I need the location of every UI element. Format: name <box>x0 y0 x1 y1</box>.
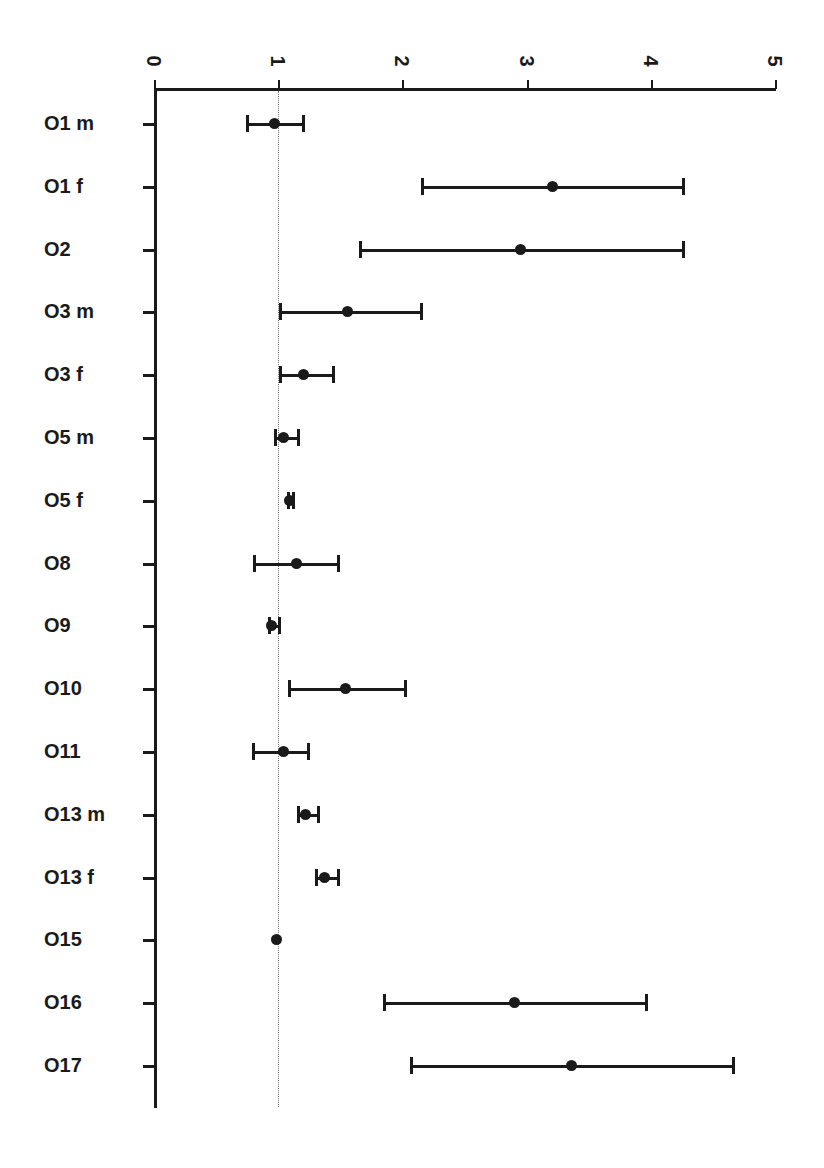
category-label-o17: O17 <box>44 1054 139 1076</box>
y-tick-o1-f <box>143 186 155 189</box>
category-label-o15: O15 <box>44 928 139 950</box>
point-marker-o5-f <box>284 495 295 506</box>
y-axis-line <box>154 88 157 1108</box>
y-tick-o17 <box>143 1065 155 1068</box>
ci-cap-upper-o13-f <box>337 869 340 886</box>
x-tick-label-5: 5 <box>764 48 786 74</box>
point-marker-o16 <box>509 997 520 1008</box>
x-tick-4 <box>651 80 653 89</box>
point-marker-o8 <box>291 558 302 569</box>
category-label-o2: O2 <box>44 238 139 260</box>
category-label-o16: O16 <box>44 991 139 1013</box>
point-marker-o15 <box>271 934 282 945</box>
category-label-o8: O8 <box>44 552 139 574</box>
ci-cap-lower-o16 <box>383 994 386 1011</box>
category-label-o1-m: O1 m <box>44 112 139 134</box>
ci-cap-lower-o17 <box>410 1057 413 1074</box>
point-marker-o1-f <box>547 181 558 192</box>
ci-cap-upper-o3-m <box>420 303 423 320</box>
category-label-o13-f: O13 f <box>44 866 139 888</box>
ci-cap-upper-o1-m <box>302 115 305 132</box>
point-marker-o3-m <box>342 306 353 317</box>
point-marker-o3-f <box>298 369 309 380</box>
y-tick-o3-m <box>143 311 155 314</box>
ci-cap-upper-o17 <box>732 1057 735 1074</box>
point-marker-o2 <box>515 244 526 255</box>
x-tick-0 <box>154 80 156 89</box>
x-tick-1 <box>278 80 280 89</box>
category-label-o13-m: O13 m <box>44 803 139 825</box>
y-tick-o13-m <box>143 814 155 817</box>
y-tick-o9 <box>143 625 155 628</box>
ci-cap-lower-o11 <box>252 743 255 760</box>
category-label-o1-f: O1 f <box>44 175 139 197</box>
ci-cap-lower-o1-m <box>246 115 249 132</box>
x-tick-label-4: 4 <box>640 48 662 74</box>
y-tick-o3-f <box>143 374 155 377</box>
point-marker-o1-m <box>269 118 280 129</box>
y-tick-o13-f <box>143 877 155 880</box>
ci-cap-upper-o9 <box>278 617 281 634</box>
point-marker-o11 <box>278 746 289 757</box>
x-tick-label-2: 2 <box>391 48 413 74</box>
ci-cap-lower-o2 <box>359 241 362 258</box>
ci-cap-lower-o10 <box>288 680 291 697</box>
x-tick-2 <box>402 80 404 89</box>
x-tick-label-0: 0 <box>143 48 165 74</box>
ci-cap-lower-o8 <box>253 555 256 572</box>
reference-line-at-one <box>278 91 279 1107</box>
ci-cap-upper-o13-m <box>317 806 320 823</box>
point-marker-o5-m <box>278 432 289 443</box>
x-tick-label-1: 1 <box>267 48 289 74</box>
category-label-o11: O11 <box>44 740 139 762</box>
category-label-o5-m: O5 m <box>44 426 139 448</box>
point-marker-o13-m <box>300 809 311 820</box>
category-label-o3-f: O3 f <box>44 363 139 385</box>
ci-cap-upper-o5-m <box>297 429 300 446</box>
y-tick-o5-m <box>143 437 155 440</box>
point-marker-o10 <box>340 683 351 694</box>
ci-cap-upper-o2 <box>682 241 685 258</box>
category-label-o3-m: O3 m <box>44 300 139 322</box>
y-tick-o11 <box>143 751 155 754</box>
category-label-o5-f: O5 f <box>44 489 139 511</box>
ci-cap-upper-o8 <box>337 555 340 572</box>
y-tick-o15 <box>143 939 155 942</box>
point-marker-o13-f <box>319 872 330 883</box>
ci-cap-upper-o11 <box>307 743 310 760</box>
y-tick-o5-f <box>143 500 155 503</box>
x-tick-5 <box>775 80 777 89</box>
y-tick-o1-m <box>143 123 155 126</box>
x-tick-label-3: 3 <box>516 48 538 74</box>
category-label-o10: O10 <box>44 677 139 699</box>
y-tick-o2 <box>143 249 155 252</box>
ci-cap-upper-o1-f <box>682 178 685 195</box>
y-tick-o8 <box>143 563 155 566</box>
x-tick-3 <box>527 80 529 89</box>
y-tick-o16 <box>143 1002 155 1005</box>
x-axis-line <box>154 88 776 91</box>
y-tick-o10 <box>143 688 155 691</box>
ci-cap-lower-o3-f <box>279 366 282 383</box>
forest-plot: 012345 O1 mO1 fO2O3 mO3 fO5 mO5 fO8O9O10… <box>0 0 824 1168</box>
category-label-o9: O9 <box>44 614 139 636</box>
point-marker-o17 <box>566 1060 577 1071</box>
ci-cap-lower-o1-f <box>421 178 424 195</box>
ci-cap-upper-o16 <box>645 994 648 1011</box>
ci-cap-upper-o3-f <box>332 366 335 383</box>
ci-cap-upper-o10 <box>404 680 407 697</box>
point-marker-o9 <box>266 620 277 631</box>
ci-cap-lower-o3-m <box>279 303 282 320</box>
